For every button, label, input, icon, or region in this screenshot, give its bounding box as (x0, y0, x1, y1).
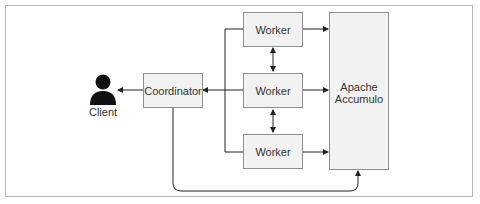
coordinator-box: Coordinator (143, 73, 203, 108)
client-label: Client (82, 106, 124, 118)
person-icon (88, 74, 118, 106)
worker-label: Worker (255, 85, 290, 97)
worker-label: Worker (255, 146, 290, 158)
accumulo-label-line2: Accumulo (335, 93, 383, 105)
worker-box-1: Worker (243, 12, 303, 47)
accumulo-label-line1: Apache (335, 81, 383, 93)
worker-label: Worker (255, 24, 290, 36)
worker-box-2: Worker (243, 73, 303, 108)
connector-lines (0, 0, 480, 204)
worker-box-3: Worker (243, 134, 303, 169)
accumulo-box: Apache Accumulo (329, 12, 389, 170)
coordinator-label: Coordinator (144, 85, 201, 97)
